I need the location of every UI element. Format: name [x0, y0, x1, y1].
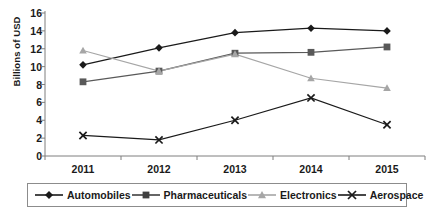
x-tick-2011: 2011 [72, 163, 95, 175]
square-icon [131, 189, 161, 201]
legend-label: Automobiles [67, 189, 131, 201]
series-line-aerospace [83, 98, 387, 140]
x-tick-2014: 2014 [299, 163, 322, 175]
chart-legend: AutomobilesPharmaceuticalsElectronicsAer… [27, 183, 407, 207]
triangle-icon [247, 189, 277, 201]
data-point-pharmaceuticals-2011 [80, 78, 87, 85]
data-point-electronics-2011 [79, 47, 87, 54]
legend-label: Aerospace [370, 189, 424, 201]
cross-icon [337, 189, 367, 201]
data-point-automobiles-2014 [307, 24, 315, 32]
data-point-automobiles-2012 [155, 44, 163, 52]
legend-item-pharmaceuticals[interactable]: Pharmaceuticals [131, 189, 247, 201]
data-point-pharmaceuticals-2014 [308, 49, 315, 56]
line-chart: Billions of USD 1614121086420 2011201220… [0, 0, 435, 216]
data-point-automobiles-2013 [231, 29, 239, 37]
legend-item-electronics[interactable]: Electronics [247, 189, 337, 201]
legend-item-automobiles[interactable]: Automobiles [34, 189, 131, 201]
data-point-aerospace-2013 [231, 117, 238, 124]
legend-label: Pharmaceuticals [164, 189, 247, 201]
data-point-pharmaceuticals-2015 [384, 44, 391, 51]
legend-item-aerospace[interactable]: Aerospace [337, 189, 424, 201]
legend-marker [45, 191, 53, 199]
data-point-aerospace-2014 [307, 94, 314, 101]
legend-marker [142, 192, 149, 199]
diamond-icon [34, 189, 64, 201]
x-tick-2012: 2012 [147, 163, 170, 175]
data-point-aerospace-2015 [383, 121, 390, 128]
data-point-automobiles-2011 [79, 61, 87, 69]
data-point-automobiles-2015 [383, 27, 391, 35]
x-tick-2015: 2015 [375, 163, 398, 175]
legend-label: Electronics [280, 189, 337, 201]
x-tick-2013: 2013 [223, 163, 246, 175]
